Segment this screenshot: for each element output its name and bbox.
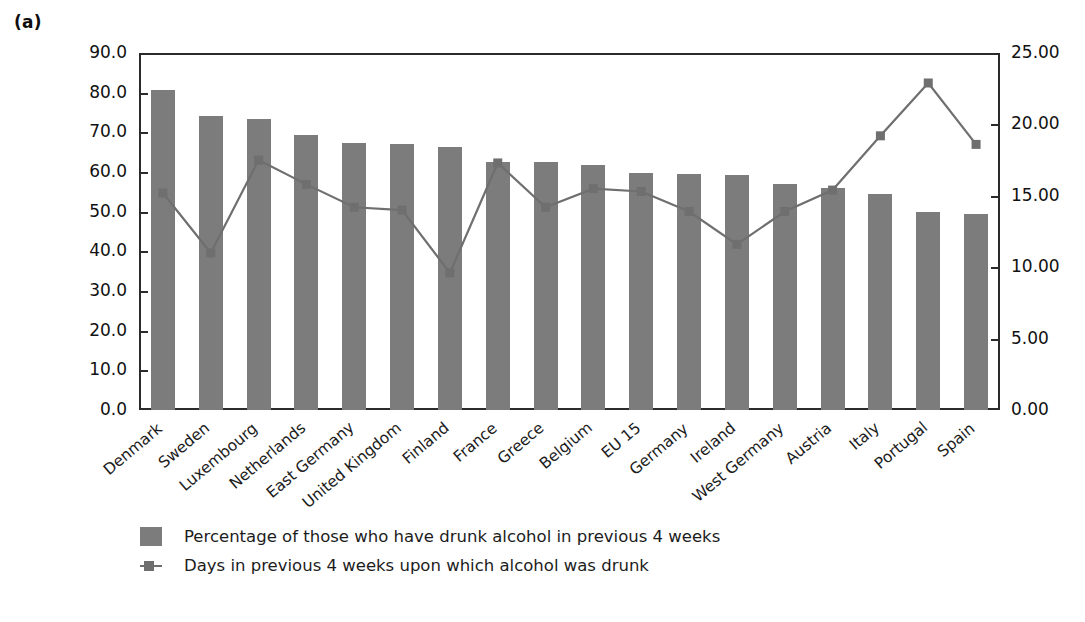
- y2-axis-tick-label: 25.00: [1011, 44, 1060, 61]
- y-axis-tick-label: 50.0: [0, 203, 127, 220]
- left-axis-tick-mark: [139, 331, 148, 333]
- legend-item-line: Days in previous 4 weeks upon which alco…: [140, 551, 840, 580]
- y-axis-tick-label: 20.0: [0, 322, 127, 339]
- y-axis-tick-label: 0.0: [0, 401, 127, 418]
- y-axis-tick-label: 40.0: [0, 242, 127, 259]
- bar-finland: [438, 147, 462, 410]
- legend-line-marker-icon: [140, 556, 162, 575]
- panel-label: (a): [14, 12, 42, 32]
- bar-luxembourg: [247, 119, 271, 410]
- y-axis-tick-label: 80.0: [0, 84, 127, 101]
- category-label-spain: Spain: [934, 419, 978, 460]
- legend-bar-swatch-icon: [140, 527, 162, 546]
- plot-area: [139, 53, 1000, 410]
- right-axis-tick-mark: [991, 124, 1000, 126]
- bar-portugal: [916, 212, 940, 410]
- category-label-belgium: Belgium: [536, 419, 596, 473]
- y2-axis-tick-label: 20.00: [1011, 115, 1060, 132]
- bar-greece: [534, 162, 558, 410]
- y-axis-tick-label: 90.0: [0, 44, 127, 61]
- right-axis-tick-mark: [991, 267, 1000, 269]
- y2-axis-tick-label: 5.00: [1011, 330, 1049, 347]
- legend-item-bars: Percentage of those who have drunk alcoh…: [140, 522, 840, 551]
- chart-legend: Percentage of those who have drunk alcoh…: [140, 522, 840, 580]
- bar-east-germany: [342, 143, 366, 410]
- bar-denmark: [151, 90, 175, 411]
- category-label-ireland: Ireland: [687, 419, 739, 467]
- category-label-luxembourg: Luxembourg: [176, 419, 261, 494]
- right-axis-tick-mark: [991, 339, 1000, 341]
- legend-label-percentage: Percentage of those who have drunk alcoh…: [184, 527, 720, 546]
- bar-france: [486, 162, 510, 410]
- category-label-denmark: Denmark: [100, 419, 166, 478]
- bar-eu-15: [629, 173, 653, 410]
- bar-sweden: [199, 116, 223, 410]
- y2-axis-tick-label: 10.00: [1011, 258, 1060, 275]
- bar-austria: [821, 188, 845, 410]
- bar-italy: [868, 194, 892, 410]
- bar-germany: [677, 174, 701, 410]
- y2-axis-tick-label: 15.00: [1011, 187, 1060, 204]
- category-label-finland: Finland: [399, 419, 452, 468]
- right-axis-tick-mark: [991, 196, 1000, 198]
- category-label-france: France: [450, 419, 501, 466]
- category-label-east-germany: East Germany: [263, 419, 358, 502]
- bar-ireland: [725, 175, 749, 410]
- category-label-netherlands: Netherlands: [226, 419, 309, 493]
- left-axis-tick-mark: [139, 212, 148, 214]
- y-axis-tick-label: 10.0: [0, 361, 127, 378]
- y-axis-tick-label: 30.0: [0, 282, 127, 299]
- bar-netherlands: [294, 135, 318, 410]
- category-label-germany: Germany: [626, 419, 692, 478]
- y2-axis-tick-label: 0.00: [1011, 401, 1049, 418]
- category-label-eu-15: EU 15: [598, 419, 644, 462]
- y-axis-tick-label: 60.0: [0, 163, 127, 180]
- y-axis-tick-label: 70.0: [0, 123, 127, 140]
- category-label-italy: Italy: [846, 419, 883, 454]
- category-label-united-kingdom: United Kingdom: [299, 419, 405, 512]
- left-axis-tick-mark: [139, 291, 148, 293]
- legend-label-days: Days in previous 4 weeks upon which alco…: [184, 556, 649, 575]
- bar-spain: [964, 214, 988, 410]
- category-label-austria: Austria: [782, 419, 835, 468]
- category-label-sweden: Sweden: [155, 419, 213, 472]
- bar-united-kingdom: [390, 144, 414, 410]
- category-label-west-germany: West Germany: [689, 419, 787, 505]
- left-axis-tick-mark: [139, 132, 148, 134]
- category-label-greece: Greece: [494, 419, 547, 468]
- legend-square-marker-icon: [144, 561, 154, 571]
- category-label-portugal: Portugal: [871, 419, 931, 474]
- left-axis-tick-mark: [139, 370, 148, 372]
- left-axis-tick-mark: [139, 251, 148, 253]
- left-axis-tick-mark: [139, 172, 148, 174]
- bar-belgium: [581, 165, 605, 410]
- bar-west-germany: [773, 184, 797, 410]
- left-axis-tick-mark: [139, 93, 148, 95]
